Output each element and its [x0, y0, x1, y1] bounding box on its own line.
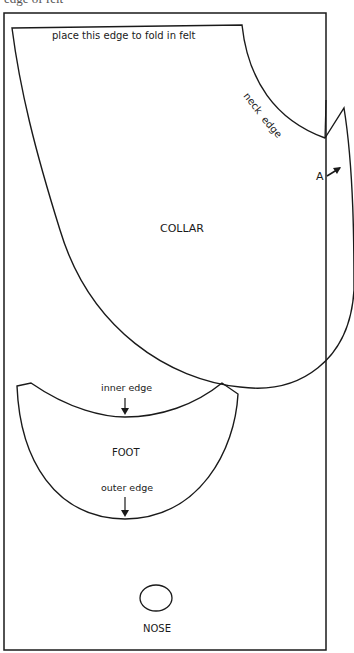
nose-piece: NOSE: [140, 585, 172, 634]
point-arrowhead-icon: [333, 167, 341, 174]
collar-outline: [12, 25, 354, 388]
nose-outline: [140, 585, 172, 611]
foot-title: FOOT: [112, 447, 140, 458]
collar-neck-label-2: edge: [260, 114, 285, 140]
collar-neck-label-1: neck: [241, 90, 264, 116]
collar-piece: place this edge to fold in felt neck edg…: [12, 25, 354, 388]
inner-arrowhead-icon: [121, 408, 129, 415]
foot-inner-label: inner edge: [101, 382, 152, 393]
collar-point-label: A: [316, 170, 324, 183]
pattern-sheet: place this edge to fold in felt neck edg…: [0, 0, 354, 653]
outer-arrowhead-icon: [121, 510, 129, 517]
collar-fold-label: place this edge to fold in felt: [52, 30, 196, 41]
foot-piece: inner edge FOOT outer edge: [17, 382, 238, 519]
foot-outer-label: outer edge: [101, 482, 153, 493]
nose-title: NOSE: [143, 623, 171, 634]
collar-title: COLLAR: [160, 222, 204, 235]
